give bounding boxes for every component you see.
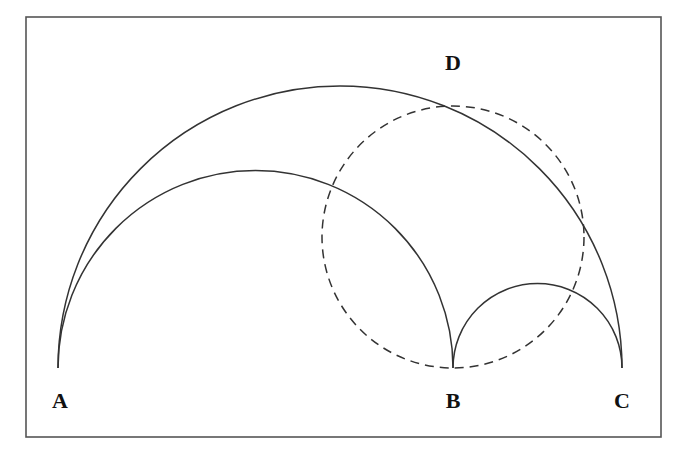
dashed-circle — [322, 106, 584, 368]
semicircle-ac — [58, 86, 622, 368]
diagram-frame — [26, 17, 661, 437]
point-label-c: C — [614, 388, 630, 413]
point-label-d: D — [445, 50, 461, 75]
point-label-b: B — [446, 388, 461, 413]
diagram-canvas: A B C D — [0, 0, 675, 468]
point-label-a: A — [52, 388, 68, 413]
semicircle-bc — [453, 284, 622, 369]
semicircle-ab — [58, 171, 453, 369]
